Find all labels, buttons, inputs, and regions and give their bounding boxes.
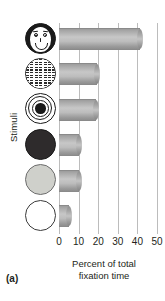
- x-tick-label-40: 40: [132, 236, 143, 247]
- stimulus-cell-white-circle: [24, 200, 57, 233]
- y-axis-label: Stimuli: [8, 93, 19, 163]
- bullseye-icon: [25, 93, 56, 124]
- stimuli-icon-column: [24, 23, 57, 234]
- x-tick-label-20: 20: [93, 236, 104, 247]
- bar-row: [59, 23, 157, 56]
- bar-row: [59, 94, 157, 127]
- bar-bullseye: [59, 99, 96, 121]
- gray-circle-icon: [25, 164, 56, 195]
- bar-face: [59, 28, 140, 50]
- bar-row: [59, 200, 157, 233]
- x-axis-label-line1: Percent of total: [45, 258, 163, 270]
- panel-label: (a): [6, 273, 18, 284]
- face-mouth: [35, 43, 48, 50]
- x-tick-label-0: 0: [56, 236, 62, 247]
- bullseye-center-dot: [35, 103, 45, 113]
- x-axis-tick-labels: 01020304050: [59, 236, 157, 250]
- stimulus-cell-dark-circle: [24, 129, 57, 162]
- x-axis-label-line2: fixation time: [45, 270, 163, 282]
- gridline-50: [157, 23, 158, 234]
- bar-end-cap: [93, 100, 99, 120]
- bar-light-gray-circle: [59, 170, 79, 192]
- newsprint-circle-icon: [25, 58, 56, 89]
- stimulus-cell-newsprint: [24, 58, 57, 91]
- newsprint-gaps: [26, 59, 55, 88]
- bar-end-cap: [76, 135, 82, 155]
- bar-dark-red-circle: [59, 134, 79, 156]
- bar-end-cap: [94, 64, 100, 84]
- bar-end-cap: [137, 29, 143, 49]
- face-nose: [40, 38, 41, 42]
- face-icon: [25, 23, 56, 54]
- stimulus-cell-gray-circle: [24, 164, 57, 197]
- face-brow-right: [43, 30, 48, 32]
- stimulus-cell-bullseye: [24, 93, 57, 126]
- bar-newsprint: [59, 63, 97, 85]
- bar-row: [59, 129, 157, 162]
- stimulus-cell-face: [24, 23, 57, 56]
- bar-end-cap: [76, 171, 82, 191]
- bar-end-cap: [66, 206, 72, 226]
- face-brow-left: [33, 30, 38, 32]
- x-tick-label-30: 30: [112, 236, 123, 247]
- plot-area: [59, 23, 157, 234]
- bar-white-circle: [59, 205, 69, 227]
- dark-circle-icon: [25, 129, 56, 160]
- x-tick-label-50: 50: [151, 236, 162, 247]
- bar-row: [59, 58, 157, 91]
- bar-row: [59, 165, 157, 198]
- x-axis-label: Percent of total fixation time: [45, 258, 163, 281]
- white-circle-icon: [25, 200, 56, 231]
- figure-panel-a: Stimuli: [0, 0, 165, 301]
- x-tick-label-10: 10: [73, 236, 84, 247]
